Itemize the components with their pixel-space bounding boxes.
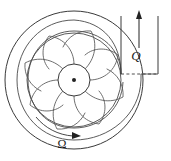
impeller-blade xyxy=(53,91,85,129)
shaft-center-dot xyxy=(72,78,76,82)
impeller-blade xyxy=(63,31,95,69)
angular-velocity-label: Ω xyxy=(58,137,67,151)
flow-rate-label: Q xyxy=(131,48,141,63)
rotation-arrow-head xyxy=(72,132,81,139)
impeller-blade xyxy=(85,69,123,101)
flow-arrow-head xyxy=(136,10,142,19)
centrifugal-pump-drawing: Q Ω xyxy=(0,0,171,161)
pump-diagram-figure: Q Ω xyxy=(0,0,171,161)
